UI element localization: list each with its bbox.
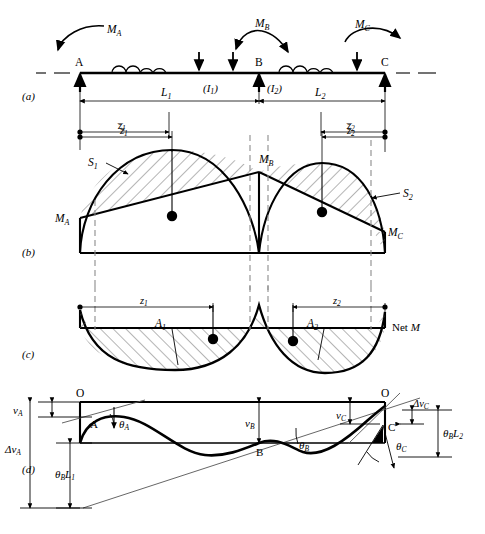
deviation-label-delta-vA: ΔvA	[4, 443, 21, 457]
deflection-label-vC: vC	[336, 409, 347, 423]
corner-hatch-MC	[374, 232, 385, 253]
net-corner-hatch-A	[80, 310, 89, 328]
panel-label-c: (c)	[22, 348, 35, 361]
tangent-line-B	[83, 398, 420, 508]
dimension-delta-vC	[400, 410, 424, 424]
stiffness-label-I1: (I1)	[203, 82, 218, 96]
moment-arrow-A	[58, 26, 104, 50]
dimension-vA	[38, 402, 92, 417]
deflection-label-vA: vA	[13, 404, 23, 418]
area-label-S1: S1	[88, 156, 98, 171]
point-label-A-d: A	[90, 418, 98, 430]
deviation-label-delta-vC: ΔvC	[412, 398, 430, 411]
panel-c: (c) A1 A2 z1 z2 Net M	[22, 286, 421, 373]
panel-c-projection-dashes	[95, 286, 371, 330]
tangent-offset-label-thetaB-L2: θBL2	[443, 427, 463, 441]
centroid-label-z2: z2	[332, 295, 341, 308]
deflection-label-vB: vB	[245, 417, 255, 431]
panel-b: (b) S1 S2 MA MB MC z̅1 z̅2	[22, 125, 413, 290]
moment-label-MB: MB	[254, 17, 270, 32]
panel-label-a: (a)	[22, 90, 35, 103]
stiffness-label-I2: (I2)	[267, 82, 282, 96]
datum-label-O-right: O	[381, 387, 389, 399]
angle-arc-B	[296, 428, 298, 444]
support-label-B: B	[255, 56, 263, 68]
net-area-A1	[80, 305, 259, 370]
moment-label-MA: MA	[106, 23, 122, 38]
support-label-A: A	[75, 56, 84, 68]
panel-d: (d) O O A B C vA vB vC ΔvA ΔvC θA θB θC …	[4, 387, 463, 508]
moment-label-MB-b: MB	[258, 153, 274, 168]
panel-a: (a) A B C MA MB MC (I1) (I2) L1 L2 z̅1 z…	[22, 17, 436, 136]
support-label-C: C	[381, 56, 389, 68]
dimension-delta-vA	[20, 402, 80, 508]
point-label-B-d: B	[256, 446, 263, 458]
panel-label-d: (d)	[22, 463, 35, 476]
support-reactions	[80, 74, 385, 92]
beam-figure-svg: (a) A B C MA MB MC (I1) (I2) L1 L2 z̅1 z…	[0, 0, 485, 534]
centroid-label-zbar1-b: z̅1	[119, 125, 128, 138]
tangent-offset-label-thetaB-L1: θBL1	[55, 468, 75, 482]
moment-label-MC: MC	[354, 18, 371, 33]
leader-S2	[372, 193, 400, 198]
moment-arrow-C	[345, 28, 400, 42]
moment-arrow-B	[236, 31, 288, 52]
figure-root: (a) A B C MA MB MC (I1) (I2) L1 L2 z̅1 z…	[0, 0, 485, 534]
span-label-L1: L1	[160, 86, 171, 101]
panel-label-b: (b)	[22, 246, 35, 259]
point-label-C-d: C	[388, 421, 395, 433]
moment-label-MA-b: MA	[54, 212, 70, 227]
slope-label-thetaA: θA	[119, 418, 129, 432]
angle-fill-C	[372, 426, 383, 443]
centroid-label-z1: z1	[139, 295, 148, 308]
point-load-arrows	[199, 52, 357, 70]
datum-label-O-left: O	[76, 387, 84, 399]
span-label-L2: L2	[314, 86, 325, 101]
moment-label-MC-b: MC	[387, 226, 404, 241]
net-moment-label: Net M	[392, 321, 421, 333]
angle-arc-C	[367, 452, 379, 462]
slope-label-thetaC: θC	[396, 440, 407, 454]
area-label-S2: S2	[403, 187, 413, 202]
